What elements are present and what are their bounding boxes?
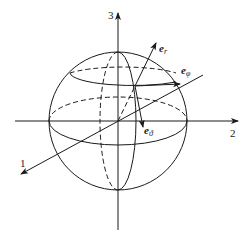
e-r-arrow (135, 43, 156, 86)
sphere-diagram: 3 2 1 er eφ eϑ (0, 0, 249, 233)
radius-to-point (118, 86, 135, 121)
axis-1-label: 1 (20, 157, 26, 169)
axis-3-label: 3 (108, 9, 114, 21)
axis-2-label: 2 (230, 127, 236, 139)
e-phi-label: eφ (181, 64, 191, 78)
latitude-back (70, 67, 176, 73)
e-r-label: er (159, 42, 168, 56)
e-theta-label: eϑ (144, 124, 154, 138)
latitude-front (70, 73, 176, 86)
